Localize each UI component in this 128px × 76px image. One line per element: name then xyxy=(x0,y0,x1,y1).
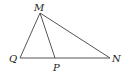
segment-mn xyxy=(40,13,110,58)
label-m: M xyxy=(33,2,45,13)
label-p: P xyxy=(52,62,60,73)
triangle-diagram: M Q P N xyxy=(0,0,128,76)
label-n: N xyxy=(111,53,122,64)
label-q: Q xyxy=(9,53,17,64)
segment-mq xyxy=(20,13,40,58)
segment-mp xyxy=(40,13,55,58)
